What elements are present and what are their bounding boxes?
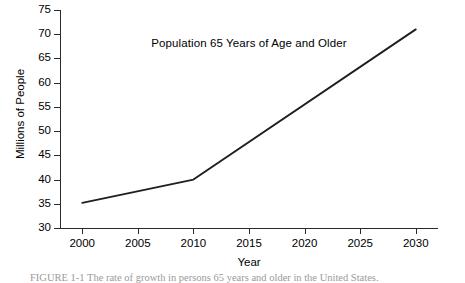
x-tick-label: 2010 [181,238,207,250]
x-tick-label: 2025 [347,238,373,250]
x-tick-mark [249,228,250,234]
y-tick-label: 45 [38,150,51,162]
y-tick-label: 55 [38,101,51,113]
x-tick-mark [193,228,194,234]
x-tick-label: 2005 [125,238,151,250]
plot-area: 30354045505560657075 2000200520102015202… [60,10,438,228]
series-line-chart [60,10,438,228]
y-tick-label: 40 [38,174,51,186]
y-tick-label: 60 [38,77,51,89]
x-tick-mark [82,228,83,234]
x-tick-label: 2000 [69,238,95,250]
y-tick-label: 70 [38,28,51,40]
x-tick-label: 2015 [236,238,262,250]
y-tick-label: 75 [38,4,51,16]
figure-container: Population 65 Years of Age and Older Mil… [0,0,465,283]
y-tick-mark [54,228,60,229]
x-tick-mark [138,228,139,234]
y-tick-label: 50 [38,125,51,137]
x-tick-label: 2030 [403,238,429,250]
y-axis-label: Millions of People [14,44,26,184]
x-tick-mark [305,228,306,234]
y-tick-label: 30 [38,222,51,234]
x-tick-label: 2020 [292,238,318,250]
series-polyline-population-65-and-older [82,29,416,202]
y-tick-label: 35 [38,198,51,210]
x-axis-label: Year [60,256,438,268]
figure-caption: FIGURE 1-1 The rate of growth in persons… [30,272,450,283]
y-tick-label: 65 [38,53,51,65]
x-tick-mark [360,228,361,234]
x-tick-mark [416,228,417,234]
